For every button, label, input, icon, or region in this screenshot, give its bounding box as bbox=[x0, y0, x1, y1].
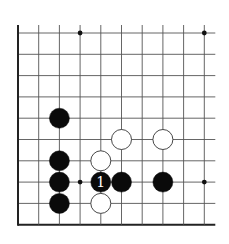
white-stone-icon bbox=[91, 151, 111, 171]
black-stone-icon bbox=[153, 172, 173, 192]
black-stone bbox=[49, 193, 69, 213]
black-stone bbox=[49, 172, 69, 192]
black-stone bbox=[112, 172, 132, 192]
black-stone bbox=[49, 108, 69, 128]
star-point-icon bbox=[78, 180, 83, 185]
white-stone bbox=[91, 193, 111, 213]
star-point-icon bbox=[202, 31, 207, 36]
star-point-icon bbox=[202, 180, 207, 185]
white-stone bbox=[153, 130, 173, 150]
white-stone-icon bbox=[153, 130, 173, 150]
white-stone-icon bbox=[112, 130, 132, 150]
black-stone-icon bbox=[49, 151, 69, 171]
black-stone-marked: 1 bbox=[91, 172, 111, 192]
black-stone-icon bbox=[112, 172, 132, 192]
black-stone-icon bbox=[49, 193, 69, 213]
go-board: 1 bbox=[0, 0, 229, 244]
grid-lines bbox=[18, 25, 215, 226]
white-stone bbox=[112, 130, 132, 150]
star-point-icon bbox=[78, 31, 83, 36]
move-number-label: 1 bbox=[96, 174, 105, 190]
black-stone-icon bbox=[49, 172, 69, 192]
black-stone-icon bbox=[49, 108, 69, 128]
black-stone bbox=[49, 151, 69, 171]
black-stone bbox=[153, 172, 173, 192]
white-stone-icon bbox=[91, 193, 111, 213]
white-stone bbox=[91, 151, 111, 171]
